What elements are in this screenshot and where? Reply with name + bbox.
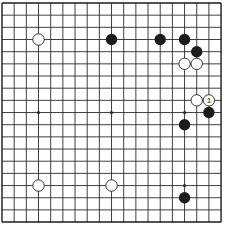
black-stone-icon — [203, 107, 214, 118]
black-stone[interactable] — [179, 119, 190, 130]
black-stone[interactable] — [203, 107, 214, 118]
black-stone-icon — [179, 192, 190, 203]
move-number-label: 1 — [207, 96, 212, 105]
white-stone-icon — [33, 34, 44, 45]
go-board[interactable]: 1 — [0, 0, 226, 229]
white-stone-icon — [191, 58, 202, 69]
white-stone[interactable] — [191, 58, 202, 69]
black-stone-icon — [106, 34, 117, 45]
white-stone[interactable] — [191, 95, 202, 106]
black-stone[interactable] — [179, 34, 190, 45]
white-stone-icon — [106, 180, 117, 191]
black-stone-icon — [179, 119, 190, 130]
black-stone-icon — [155, 34, 166, 45]
star-point-icon — [110, 111, 113, 114]
white-stone-icon — [179, 58, 190, 69]
white-stone[interactable]: 1 — [203, 95, 214, 106]
star-point-icon — [183, 111, 186, 114]
black-stone[interactable] — [179, 192, 190, 203]
white-stone[interactable] — [106, 180, 117, 191]
white-stone[interactable] — [179, 58, 190, 69]
white-stone[interactable] — [33, 34, 44, 45]
black-stone[interactable] — [155, 34, 166, 45]
star-point-icon — [37, 111, 40, 114]
black-stone[interactable] — [106, 34, 117, 45]
black-stone[interactable] — [191, 46, 202, 57]
black-stone-icon — [191, 46, 202, 57]
black-stone-icon — [179, 34, 190, 45]
white-stone-icon — [33, 180, 44, 191]
star-point-icon — [183, 184, 186, 187]
white-stone-icon — [191, 95, 202, 106]
white-stone[interactable] — [33, 180, 44, 191]
